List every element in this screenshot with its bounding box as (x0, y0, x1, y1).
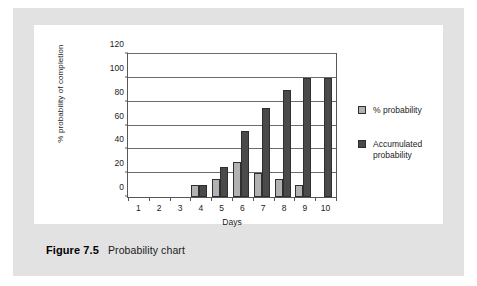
x-axis-title: Days (127, 217, 337, 227)
x-tick-label: 5 (219, 203, 224, 213)
x-tick-mark (149, 197, 150, 201)
x-tick-mark (170, 197, 171, 201)
legend-item-label: Accumulated probability (373, 139, 451, 161)
x-tick-label: 9 (302, 203, 307, 213)
plot-area: 020406080100120 12345678910 (127, 53, 337, 198)
x-axis-ticks: 12345678910 (128, 54, 336, 197)
y-tick-label: 60 (115, 111, 124, 121)
x-tick-mark (294, 197, 295, 201)
figure-caption-number: Figure 7.5 (46, 244, 99, 256)
figure-panel: % probability of completion 020406080100… (34, 25, 443, 224)
legend-swatch-icon (358, 140, 366, 148)
x-tick-mark (274, 197, 275, 201)
y-tick-label: 20 (115, 158, 124, 168)
x-tick-mark (315, 197, 316, 201)
y-tick-label: 100 (110, 63, 124, 73)
y-tick-label: 80 (115, 87, 124, 97)
x-tick-label: 8 (282, 203, 287, 213)
x-tick-label: 1 (136, 203, 141, 213)
y-tick-label: 120 (110, 39, 124, 49)
y-axis-title: % probability of completion (56, 30, 65, 158)
x-tick-label: 4 (198, 203, 203, 213)
x-tick-mark (128, 197, 129, 201)
x-tick-label: 6 (240, 203, 245, 213)
figure-caption: Figure 7.5Probability chart (46, 244, 185, 256)
figure-caption-text: Probability chart (108, 244, 185, 256)
x-tick-label: 10 (321, 203, 330, 213)
legend-item-percent-probability: % probability (358, 105, 422, 116)
x-tick-mark (232, 197, 233, 201)
x-tick-mark (253, 197, 254, 201)
x-tick-label: 7 (261, 203, 266, 213)
x-tick-mark (190, 197, 191, 201)
probability-chart: % probability of completion 020406080100… (34, 25, 443, 224)
y-tick-label: 40 (115, 134, 124, 144)
x-tick-label: 3 (178, 203, 183, 213)
legend-swatch-icon (358, 106, 366, 114)
legend-item-label: % probability (373, 105, 422, 116)
x-tick-mark (336, 197, 337, 201)
y-tick-label: 0 (119, 182, 124, 192)
legend-item-accumulated-probability: Accumulated probability (358, 139, 451, 161)
figure-frame: % probability of completion 020406080100… (13, 8, 464, 276)
x-tick-label: 2 (157, 203, 162, 213)
x-tick-mark (211, 197, 212, 201)
